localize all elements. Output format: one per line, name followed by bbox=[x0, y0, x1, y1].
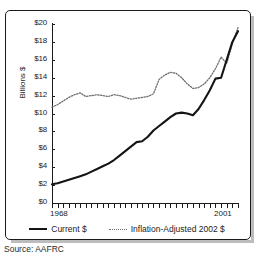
legend-label-inflation-adjusted: Inflation-Adjusted 2002 $ bbox=[131, 224, 225, 234]
legend-item-inflation-adjusted: Inflation-Adjusted 2002 $ bbox=[109, 224, 225, 234]
legend-item-current: Current $ bbox=[29, 224, 86, 234]
dotted-line-swatch-icon bbox=[109, 229, 127, 230]
legend-label-current: Current $ bbox=[51, 224, 86, 234]
chart-legend: Current $ Inflation-Adjusted 2002 $ bbox=[12, 222, 242, 236]
series-line-current bbox=[52, 31, 238, 184]
series-line-inflation-adjusted bbox=[52, 28, 238, 108]
chart-figure: Billions $ $0$2$4$6$8$10$12$14$16$18$20 … bbox=[0, 0, 260, 258]
source-note: Source: AAFRC bbox=[4, 244, 64, 254]
solid-line-swatch-icon bbox=[29, 228, 47, 230]
data-series-layer bbox=[0, 0, 260, 258]
